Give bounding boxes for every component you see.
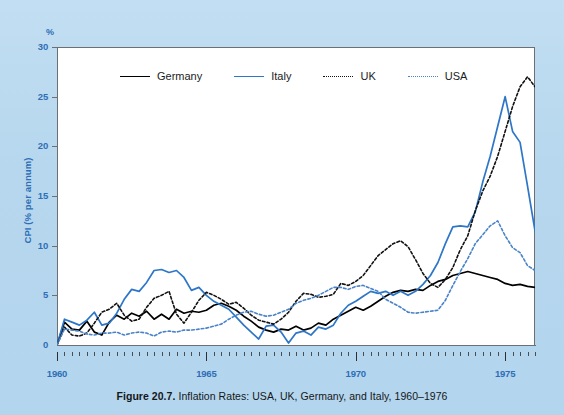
figure-caption: Figure 20.7. Inflation Rates: USA, UK, G…: [0, 390, 564, 402]
figure-area: % CPI (% per annum) 051015202530 1960196…: [0, 0, 564, 380]
legend-spacer: [291, 76, 323, 77]
chart-series-layer: [0, 0, 564, 380]
line-solid-icon: [120, 71, 150, 82]
legend-item-uk[interactable]: UK: [323, 70, 375, 82]
series-line-uk: [57, 77, 535, 345]
chart-legend: Germany Italy UK USA: [120, 70, 467, 82]
legend-item-germany[interactable]: Germany: [120, 70, 202, 82]
legend-label-germany: Germany: [157, 70, 202, 82]
legend-item-italy[interactable]: Italy: [234, 70, 291, 82]
figure-caption-label: Figure 20.7.: [116, 390, 175, 402]
legend-label-italy: Italy: [271, 70, 291, 82]
legend-item-usa[interactable]: USA: [408, 70, 468, 82]
line-dotted-icon: [408, 71, 438, 82]
figure-caption-text: Inflation Rates: USA, UK, Germany, and I…: [175, 390, 447, 402]
legend-spacer: [376, 76, 408, 77]
legend-label-usa: USA: [445, 70, 468, 82]
series-line-italy: [57, 97, 535, 345]
legend-spacer: [202, 76, 234, 77]
legend-label-uk: UK: [360, 70, 375, 82]
line-solid-icon: [234, 71, 264, 82]
line-dotted-icon: [323, 71, 353, 82]
